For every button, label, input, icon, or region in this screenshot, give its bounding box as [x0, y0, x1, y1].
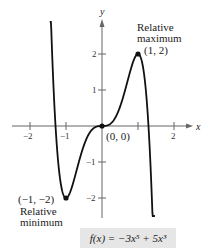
x-tick-label-2: 2	[171, 132, 176, 141]
x-axis-arrow-icon	[186, 124, 193, 129]
x-tick-label-neg2: −2	[23, 132, 33, 141]
y-axis-arrow-icon	[100, 19, 105, 27]
min-point-label: (−1, −2)	[18, 194, 54, 205]
relative-minimum-point	[63, 195, 68, 200]
y-tick-label-neg1: −1	[86, 158, 96, 167]
y-axis-label: y	[100, 6, 104, 17]
y-tick-label-1: 1	[92, 86, 97, 95]
y-tick-label-2: 2	[92, 50, 97, 59]
x-axis-label: x	[196, 121, 200, 132]
max-annotation-line2: maximum	[137, 33, 182, 44]
function-equation-label: f(x) = −3x⁵ + 5x³	[80, 228, 176, 248]
y-tick-label-neg2: −2	[86, 194, 96, 203]
origin-point	[99, 123, 104, 128]
origin-point-label: (0, 0)	[106, 131, 130, 142]
relative-maximum-point	[135, 51, 140, 56]
min-annotation-line2: minimum	[20, 217, 63, 228]
max-point-label: (1, 2)	[144, 45, 168, 56]
x-tick-label-neg1: −1	[60, 132, 70, 141]
